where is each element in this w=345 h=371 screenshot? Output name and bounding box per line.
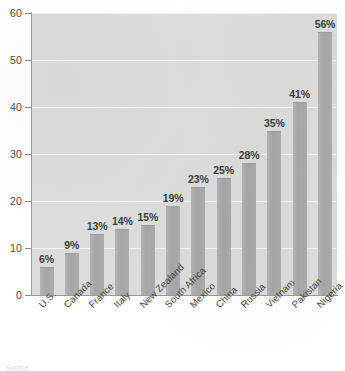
bar-value-label: 25% [204,165,244,176]
y-axis-tick-label: 10 [0,243,22,254]
bar-chart-figure: 0102030405060 6%9%13%14%15%19%23%25%28%3… [0,0,345,371]
bar [115,229,129,295]
y-axis-tick-label: 0 [0,290,22,301]
y-axis-tick-label: 30 [0,149,22,160]
bar [217,178,231,296]
y-axis-tick-label: 40 [0,102,22,113]
gridline [32,13,337,14]
y-axis-tick-label: 60 [0,8,22,19]
bar-value-label: 35% [254,118,294,129]
gridline [32,154,337,155]
y-axis-tick-label: 50 [0,55,22,66]
bar-value-label: 28% [229,150,269,161]
gridline [32,60,337,61]
bar [318,32,332,295]
bar-value-label: 6% [27,254,67,265]
bar [141,225,155,296]
bar-value-label: 19% [153,193,193,204]
bar-value-label: 9% [52,240,92,251]
bar [242,163,256,295]
bar [293,102,307,295]
y-axis-tick-label: 20 [0,196,22,207]
bar-value-label: 15% [128,212,168,223]
gridline [32,107,337,108]
plot-area [32,13,337,295]
bar-value-label: 56% [305,19,345,30]
bar [267,131,281,296]
source-note: Source: [6,364,31,371]
bar-value-label: 41% [280,89,320,100]
